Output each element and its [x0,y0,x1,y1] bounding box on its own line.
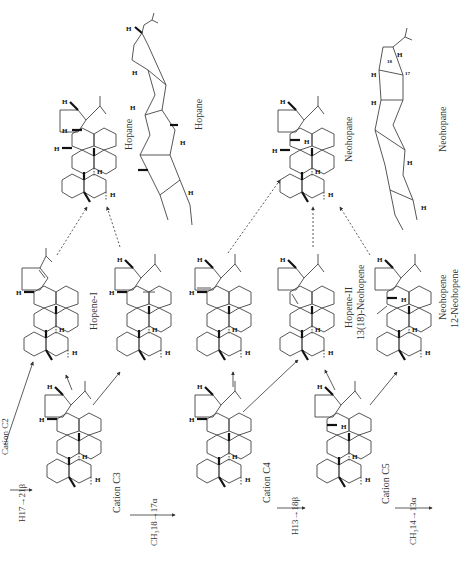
molecule-cation-c5: H H H H [315,381,371,487]
svg-text:H: H [371,99,377,107]
svg-text:H: H [16,289,22,297]
label-shift-ch3-18-17a: CH₃18→17α [149,499,160,546]
label-hopane-conformation: Hopane [193,99,204,130]
svg-text:H: H [59,326,65,334]
label-shift-ch3-14-13a: CH₃14→13α [408,498,419,545]
svg-text:H: H [245,349,251,357]
svg-text:H: H [315,326,321,334]
arrow-hopene-ia-hopane [107,207,120,247]
svg-text:H: H [341,423,347,431]
svg-text:H: H [197,256,203,264]
label-cation-c3: Cation C3 [111,472,122,513]
svg-text:H: H [132,69,138,77]
svg-text:H: H [109,289,115,297]
svg-text:H: H [97,168,103,176]
label-shift-h17-21b: H17→21β [17,484,28,522]
molecule-hopane: H H H H H [54,96,116,202]
svg-text:H: H [95,476,101,484]
label-hopene-i: Hopene-I [88,292,99,330]
svg-text:H: H [47,383,53,391]
arrow-hopene-i-hopane [57,207,87,255]
svg-text:H: H [197,383,203,391]
molecule-cation-c4: H H H H [189,381,251,487]
molecule-hopene-ia: H H H H [109,254,171,360]
arrow-hopene-ib-neohopane [228,180,280,253]
label-neohopane-conformation: Neohopane [437,106,448,152]
svg-text:H: H [317,383,323,391]
svg-text:H: H [188,189,194,197]
svg-text:H: H [152,326,158,334]
molecule-cation-c3: H H H H [39,381,101,487]
svg-text:18: 18 [387,59,393,64]
svg-text:H: H [328,349,334,357]
reaction-scheme: H H H H H H H H H H H [0,0,465,566]
molecule-neohopane-conformation: HH1817 HHH [371,28,427,230]
svg-text:H: H [232,453,238,461]
svg-text:H: H [62,127,68,135]
svg-text:H: H [401,296,407,304]
molecule-hopane-conformation: H HHHH [126,13,194,225]
svg-text:H: H [54,145,60,153]
svg-text:H: H [397,51,403,59]
label-cation-c4: Cation C4 [261,462,272,503]
label-cation-c5: Cation C5 [380,463,391,504]
label-cation-c2: Cation C2 [0,418,11,455]
svg-text:H: H [189,289,195,297]
arrow-neohopene-neohopane [340,207,370,255]
svg-text:H: H [371,71,377,79]
svg-text:H: H [377,256,383,264]
label-12-neohopene: 12-Neohopene [449,269,460,328]
svg-text:H: H [412,326,418,334]
svg-text:H: H [62,98,68,106]
svg-text:H: H [421,204,427,212]
svg-text:H: H [232,326,238,334]
svg-text:17: 17 [405,71,411,76]
svg-text:H: H [126,25,132,33]
svg-text:H: H [280,256,286,264]
molecule-hopene-i: H H H [16,248,78,360]
molecule-hopene-ib: H H H H [189,254,251,360]
svg-text:H: H [365,476,371,484]
label-hopene-ii: Hopene-II [343,287,354,328]
svg-text:H: H [130,104,136,112]
label-hopane: Hopane [123,119,134,150]
svg-text:H: H [110,191,116,199]
svg-text:H: H [82,453,88,461]
svg-text:H: H [117,256,123,264]
svg-text:H: H [280,98,286,106]
arrow-c3-hopene-ia [93,372,120,405]
svg-text:H: H [165,349,171,357]
molecule-neohopene: H H H H [375,254,431,360]
svg-text:H: H [189,416,195,424]
svg-text:H: H [315,168,321,176]
label-13-18-neohopene: 13(18)-Neohopene [355,264,366,340]
svg-text:H: H [39,416,45,424]
svg-text:H: H [407,159,413,167]
svg-text:H: H [180,139,186,147]
label-neohopane: Neohopane [343,116,354,162]
svg-text:H: H [425,349,431,357]
svg-text:H: H [245,476,251,484]
arrow-c3-hopene-i [66,375,72,390]
svg-text:H: H [72,349,78,357]
svg-text:H: H [304,138,310,146]
arrow-c4-hopene-ii [243,360,298,412]
arrow-c5-neohopene [370,372,397,405]
svg-text:H: H [328,191,334,199]
molecule-neohopane: H H H H H [272,96,334,202]
svg-text:H: H [352,453,358,461]
label-shift-h13-18b: H13→18β [290,497,301,535]
svg-text:H: H [272,147,278,155]
label-neohopene: Neohopene [437,274,448,320]
molecule-hopene-ii: H H H [278,254,334,360]
